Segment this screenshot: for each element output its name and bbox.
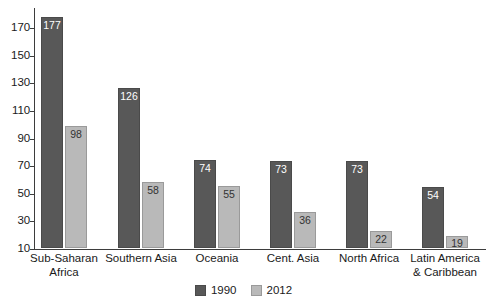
chart-legend: 19902012 — [0, 284, 487, 296]
x-axis-line — [34, 249, 486, 250]
bar-value-label: 58 — [143, 185, 163, 196]
bar-2012-1[interactable]: 98 — [65, 126, 87, 248]
y-axis-tick-label: 130 — [2, 77, 30, 89]
y-axis-tick-label: 110 — [2, 105, 30, 117]
legend-label: 2012 — [267, 284, 293, 296]
y-axis-tick-label: 50 — [2, 188, 30, 200]
bar-2012-2[interactable]: 58 — [142, 182, 164, 248]
plot-area: 17712674737354985855362219 — [34, 5, 484, 249]
bar-2012-6[interactable]: 19 — [446, 236, 468, 248]
category-label-line: Africa — [9, 266, 119, 280]
y-axis-tick-label: 150 — [2, 50, 30, 62]
bar-value-label: 19 — [447, 238, 467, 249]
bar-1990-4[interactable]: 73 — [270, 161, 292, 248]
bar-value-label: 36 — [295, 215, 315, 226]
bar-1990-6[interactable]: 54 — [422, 187, 444, 248]
bar-1990-2[interactable]: 126 — [118, 88, 140, 248]
legend-item-1990[interactable]: 1990 — [195, 284, 237, 296]
bar-2012-3[interactable]: 55 — [218, 186, 240, 248]
category-label-line: Latin America — [390, 252, 487, 266]
bar-value-label: 177 — [42, 20, 62, 31]
bar-value-label: 54 — [423, 190, 443, 201]
y-axis-tick-label: 30 — [2, 215, 30, 227]
y-axis-tick-label: 170 — [2, 22, 30, 34]
bar-value-label: 73 — [347, 164, 367, 175]
bar-2012-5[interactable]: 22 — [370, 231, 392, 248]
y-axis-tick-label: 70 — [2, 160, 30, 172]
y-axis-tick-label: 90 — [2, 133, 30, 145]
bar-1990-1[interactable]: 177 — [41, 17, 63, 248]
bar-2012-4[interactable]: 36 — [294, 212, 316, 248]
legend-swatch-1990 — [195, 285, 206, 296]
legend-label: 1990 — [211, 284, 237, 296]
bar-value-label: 74 — [195, 163, 215, 174]
bar-1990-3[interactable]: 74 — [194, 160, 216, 248]
bar-value-label: 98 — [66, 129, 86, 140]
category-label-line: & Caribbean — [390, 266, 487, 280]
bar-chart: 1701501301109070503010 17712674737354985… — [0, 0, 487, 305]
bar-value-label: 55 — [219, 189, 239, 200]
legend-item-2012[interactable]: 2012 — [251, 284, 293, 296]
bar-value-label: 73 — [271, 164, 291, 175]
bar-value-label: 126 — [119, 91, 139, 102]
x-axis-category-label: Latin America& Caribbean — [390, 252, 487, 279]
bar-value-label: 22 — [371, 234, 391, 245]
x-axis-category-labels: Sub-SaharanAfricaSouthern AsiaOceaniaCen… — [34, 252, 486, 286]
bar-1990-5[interactable]: 73 — [346, 161, 368, 248]
legend-swatch-2012 — [251, 285, 262, 296]
